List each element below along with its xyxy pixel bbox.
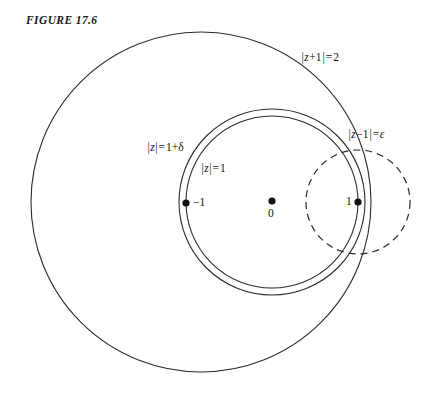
figure-container: FIGURE 17.6 |z+1|=2 |z|=1+δ |z|=1 |z−1|=…	[0, 0, 445, 395]
label-delta-circle: |z|=1+δ	[147, 142, 184, 154]
point-dot-one	[354, 198, 361, 205]
label-outer-equals: =	[325, 51, 333, 63]
point-dot-zero	[268, 197, 275, 204]
label-delta-equals: =	[158, 141, 166, 153]
label-unit-equals: =	[212, 162, 220, 174]
point-label-zero: 0	[268, 208, 274, 220]
label-unit-circle: |z|=1	[201, 163, 226, 175]
label-epsilon-circle: |z−1|=ε	[348, 129, 384, 141]
label-delta-value: 1+δ	[166, 141, 185, 153]
label-outer-value: 2	[333, 51, 340, 63]
label-outer-plus: +1	[309, 51, 322, 63]
label-epsilon-equals: =	[372, 128, 380, 140]
point-label-one: 1	[346, 196, 352, 208]
point-dot-minus-one	[182, 199, 189, 206]
label-epsilon-minus: −1	[356, 128, 369, 140]
label-unit-value: 1	[220, 162, 227, 174]
point-label-minus-one: −1	[193, 197, 205, 209]
label-outer-circle: |z+1|=2	[301, 52, 340, 64]
label-epsilon-value: ε	[380, 128, 385, 140]
figure-diagram	[0, 0, 445, 395]
